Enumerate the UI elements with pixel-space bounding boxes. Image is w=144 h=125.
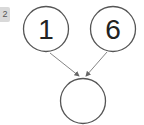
node-left-label: 1 — [38, 14, 54, 45]
arrow-right-to-bottom — [86, 52, 107, 76]
number-bond-diagram: 1 6 — [0, 0, 144, 125]
node-right-label: 6 — [105, 14, 121, 45]
node-left: 1 — [24, 7, 69, 52]
node-bottom-answer[interactable] — [61, 79, 106, 124]
node-right: 6 — [91, 7, 136, 52]
arrow-left-to-bottom — [50, 53, 79, 76]
